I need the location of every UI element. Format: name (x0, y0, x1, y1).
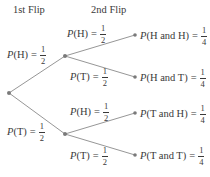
label-second-flip-tt: P(T)=12 (70, 146, 108, 166)
numerator: 1 (100, 24, 106, 35)
label-first-flip-tails: P(T)=12 (7, 122, 45, 142)
numerator: 1 (201, 26, 207, 37)
numerator: 1 (103, 102, 109, 113)
denominator: 2 (101, 35, 105, 45)
fraction: 12 (102, 67, 108, 87)
event: (T) (76, 151, 89, 162)
denominator: 2 (103, 78, 107, 88)
node-t (63, 132, 67, 136)
denominator: 2 (103, 157, 107, 167)
equals-sign: = (189, 151, 195, 162)
event: (T) (13, 127, 26, 138)
fraction: 12 (100, 24, 106, 44)
outcome-hh: P(H and H)=14 (140, 26, 207, 46)
numerator: 1 (102, 67, 108, 78)
node-root (7, 91, 11, 95)
event: (H and T) (146, 73, 187, 84)
outcome-th: P(T and H)=14 (140, 104, 206, 124)
fraction: 14 (200, 104, 206, 124)
numerator: 1 (198, 146, 204, 157)
fraction: 14 (200, 68, 206, 88)
denominator: 4 (202, 37, 206, 47)
equals-sign: = (191, 73, 197, 84)
fraction: 12 (40, 45, 46, 65)
denominator: 4 (199, 157, 203, 167)
node-th (133, 111, 137, 115)
node-h (63, 54, 67, 58)
label-second-flip-th: P(H)=12 (70, 102, 109, 122)
equals-sign: = (191, 109, 197, 120)
denominator: 4 (201, 79, 205, 89)
event: (T and H) (146, 109, 187, 120)
equals-sign: = (192, 31, 198, 42)
denominator: 2 (40, 133, 44, 143)
equals-sign: = (93, 72, 99, 83)
event: (H) (13, 50, 28, 61)
equals-sign: = (94, 107, 100, 118)
outcome-ht: P(H and T)=14 (140, 68, 206, 88)
equals-sign: = (91, 29, 97, 40)
equals-sign: = (93, 151, 99, 162)
denominator: 2 (104, 113, 108, 123)
outcome-tt: P(T and T)=14 (140, 146, 204, 166)
node-ht (133, 75, 137, 79)
label-first-flip-heads: P(H)=12 (7, 45, 46, 65)
equals-sign: = (30, 127, 36, 138)
label-second-flip-ht: P(T)=12 (70, 67, 108, 87)
numerator: 1 (200, 104, 206, 115)
fraction: 12 (39, 122, 45, 142)
header-first-flip: 1st Flip (13, 4, 45, 15)
equals-sign: = (31, 50, 37, 61)
denominator: 4 (201, 115, 205, 125)
fraction: 12 (103, 102, 109, 122)
numerator: 1 (200, 68, 206, 79)
denominator: 2 (41, 56, 45, 66)
fraction: 14 (198, 146, 204, 166)
label-second-flip-hh: P(H)=12 (67, 24, 106, 44)
event: (H) (73, 29, 88, 40)
event: (T and T) (146, 151, 186, 162)
event: (H) (76, 107, 91, 118)
numerator: 1 (39, 122, 45, 133)
fraction: 14 (201, 26, 207, 46)
numerator: 1 (40, 45, 46, 56)
node-hh (133, 33, 137, 37)
numerator: 1 (102, 146, 108, 157)
fraction: 12 (102, 146, 108, 166)
event: (T) (76, 72, 89, 83)
event: (H and H) (146, 31, 189, 42)
node-tt (133, 153, 137, 157)
header-second-flip: 2nd Flip (91, 4, 126, 15)
